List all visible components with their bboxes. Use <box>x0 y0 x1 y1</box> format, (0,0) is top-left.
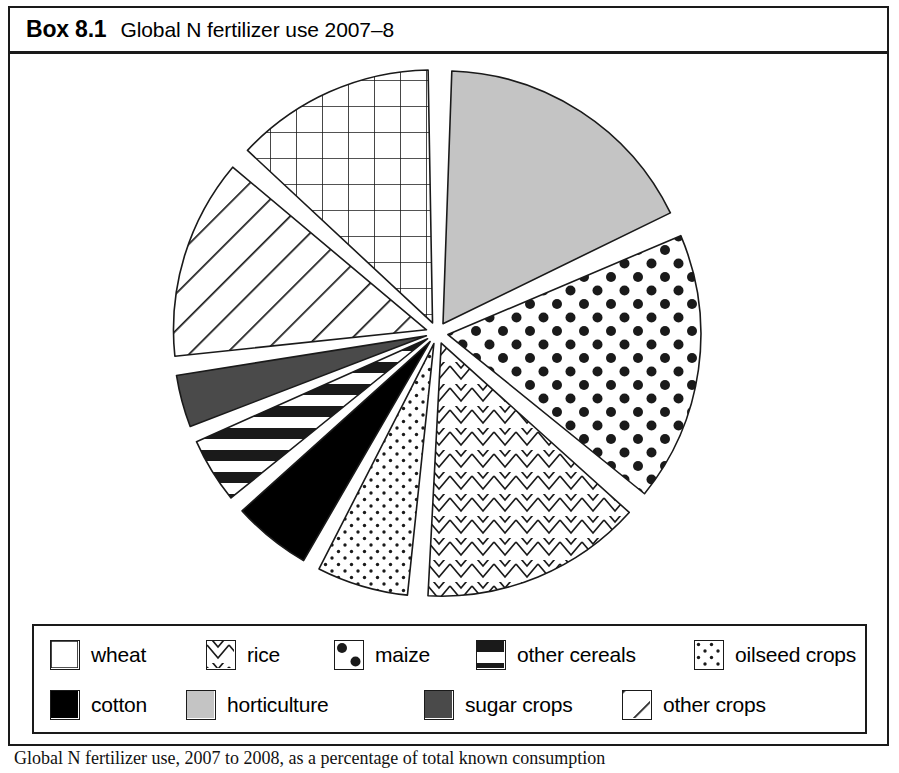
legend-item-sugar_crops[interactable]: sugar crops <box>424 690 573 720</box>
pie-slice-group <box>173 70 700 596</box>
legend-item-cotton[interactable]: cotton <box>50 690 147 720</box>
pie-chart-area <box>10 54 887 610</box>
figure-caption: Global N fertilizer use, 2007 to 2008, a… <box>14 748 884 769</box>
legend-item-other_crops[interactable]: other crops <box>622 690 766 720</box>
legend-label-other_cereals: other cereals <box>517 643 636 667</box>
pie-chart <box>10 54 887 610</box>
legend-label-other_crops: other crops <box>663 693 766 717</box>
legend-label-oilseed_crops: oilseed crops <box>735 643 856 667</box>
legend-swatch-cotton-icon <box>50 690 80 720</box>
page-title: Global N fertilizer use 2007–8 <box>120 18 394 42</box>
legend-label-horticulture: horticulture <box>227 693 328 717</box>
legend-swatch-rice-icon <box>206 640 236 670</box>
legend-label-sugar_crops: sugar crops <box>465 693 573 717</box>
legend-swatch-horticulture-icon <box>186 690 216 720</box>
legend-swatch-maize-icon <box>334 640 364 670</box>
legend-item-oilseed_crops[interactable]: oilseed crops <box>694 640 856 670</box>
legend-row: wheatricemaizeother cerealsoilseed crops <box>34 630 865 680</box>
legend-swatch-oilseed_crops-icon <box>694 640 724 670</box>
legend-label-cotton: cotton <box>91 693 147 717</box>
legend-swatch-sugar_crops-icon <box>424 690 454 720</box>
legend-item-horticulture[interactable]: horticulture <box>186 690 328 720</box>
figure-frame: Box 8.1 Global N fertilizer use 2007–8 <box>8 6 889 746</box>
legend-label-maize: maize <box>375 643 430 667</box>
legend-swatch-other_crops-icon <box>622 690 652 720</box>
legend-item-maize[interactable]: maize <box>334 640 430 670</box>
legend-label-wheat: wheat <box>91 643 146 667</box>
legend-swatch-wheat-icon <box>50 640 80 670</box>
legend-item-other_cereals[interactable]: other cereals <box>476 640 636 670</box>
legend-item-rice[interactable]: rice <box>206 640 280 670</box>
legend-label-rice: rice <box>247 643 280 667</box>
box-header: Box 8.1 Global N fertilizer use 2007–8 <box>10 8 887 54</box>
legend-swatch-other_cereals-icon <box>476 640 506 670</box>
box-number: Box 8.1 <box>26 16 106 43</box>
legend-item-wheat[interactable]: wheat <box>50 640 146 670</box>
legend-row: cottonhorticulturesugar cropsother crops <box>34 680 865 730</box>
chart-legend: wheatricemaizeother cerealsoilseed crops… <box>32 624 867 734</box>
